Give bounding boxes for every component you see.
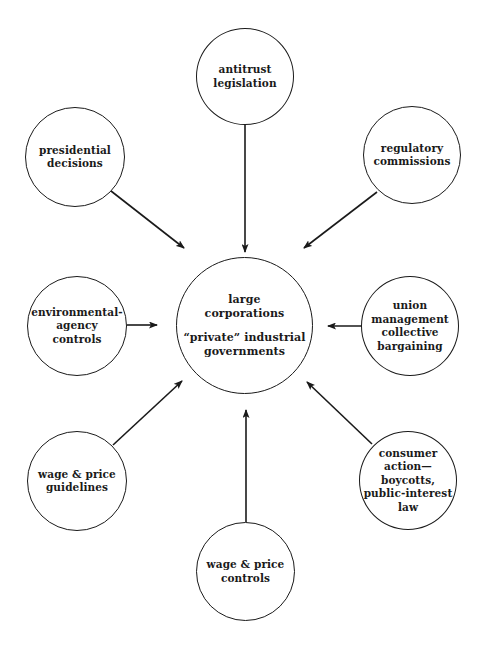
node-wage-price-controls: wage & price controls (196, 522, 295, 621)
center-line-4: governments (183, 345, 305, 359)
node-line: action—boycotts, (360, 460, 456, 487)
node-line: agency (31, 319, 122, 333)
node-wage-price-guidelines: wage & price guidelines (27, 431, 127, 531)
node-line: union (371, 299, 449, 313)
node-consumer-action: consumer action—boycotts, public-interes… (359, 431, 457, 530)
node-line: wage & price (207, 558, 285, 572)
node-line: bargaining (371, 340, 449, 354)
node-line: regulatory (373, 142, 450, 156)
node-line: guidelines (38, 481, 116, 495)
node-line: management (371, 313, 449, 327)
arrow-consumer-to-center (307, 382, 372, 444)
node-presidential-decisions: presidential decisions (25, 107, 125, 207)
center-line-2: corporations (183, 307, 305, 321)
node-line: law (360, 501, 456, 515)
node-line: presidential (39, 144, 111, 158)
node-line: consumer (360, 447, 456, 461)
node-line: public-interest (360, 487, 456, 501)
node-line: legislation (213, 77, 276, 91)
center-line-1: large (183, 293, 305, 307)
node-line: controls (207, 572, 285, 586)
node-line: decisions (39, 157, 111, 171)
node-line: controls (31, 333, 122, 347)
node-line: environmental- (31, 306, 122, 320)
node-union-management-collective-bargaining: union management collective bargaining (361, 276, 459, 376)
node-environmental-agency-controls: environmental- agency controls (27, 276, 127, 376)
node-line: collective (371, 326, 449, 340)
center-line-3: “private” industrial (183, 331, 305, 345)
arrow-guidelines-to-center (113, 381, 182, 445)
node-line: antitrust (213, 63, 276, 77)
node-regulatory-commissions: regulatory commissions (363, 106, 461, 204)
arrow-presidential-to-center (111, 191, 184, 248)
node-line: commissions (373, 155, 450, 169)
node-large-corporations: large corporations “private” industrial … (176, 257, 313, 394)
node-antitrust-legislation: antitrust legislation (196, 28, 294, 125)
arrow-regulatory-to-center (304, 192, 377, 248)
node-line: wage & price (38, 468, 116, 482)
